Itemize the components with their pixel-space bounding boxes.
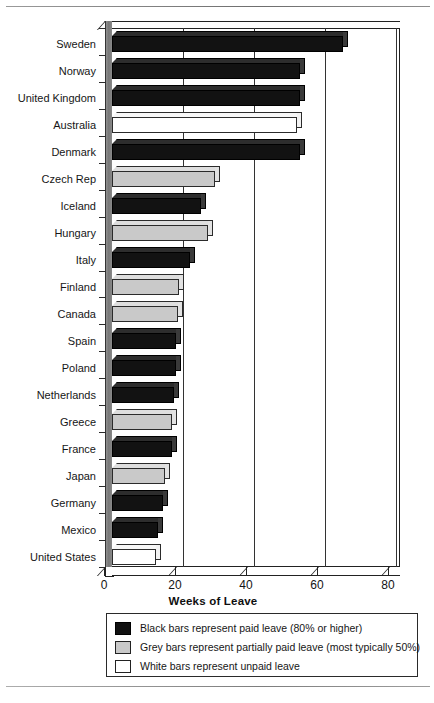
bar-australia xyxy=(112,117,297,133)
bar-spain xyxy=(112,333,176,349)
category-label-poland: Poland xyxy=(62,362,96,374)
category-label-sweden: Sweden xyxy=(56,38,96,50)
y-tick xyxy=(99,217,106,218)
axis-tick-60 xyxy=(317,567,326,576)
category-label-netherlands: Netherlands xyxy=(37,389,96,401)
category-label-spain: Spain xyxy=(68,335,96,347)
y-tick xyxy=(99,55,106,56)
legend-label: Black bars represent paid leave (80% or … xyxy=(140,622,362,634)
bar-united-states xyxy=(112,549,156,565)
legend-row: Grey bars represent partially paid leave… xyxy=(115,640,420,654)
category-label-iceland: Iceland xyxy=(61,200,96,212)
y-tick xyxy=(99,351,106,352)
y-tick xyxy=(99,297,106,298)
legend-row: White bars represent unpaid leave xyxy=(115,659,300,673)
axis-tick-80 xyxy=(388,567,397,576)
plot-left-wall xyxy=(105,21,112,567)
axis-tick-20 xyxy=(175,567,184,576)
bar-united-kingdom xyxy=(112,90,300,106)
y-tick xyxy=(99,271,106,272)
legend-swatch-black xyxy=(115,622,131,635)
x-tick-label-40: 40 xyxy=(226,578,266,592)
category-label-norway: Norway xyxy=(59,65,96,77)
x-axis-title: Weeks of Leave xyxy=(33,595,393,607)
legend-label: Grey bars represent partially paid leave… xyxy=(140,641,420,653)
y-tick xyxy=(99,28,106,29)
plot-background xyxy=(112,28,400,567)
bar-sweden xyxy=(112,36,343,52)
bar-hungary xyxy=(112,225,208,241)
gridline-60 xyxy=(325,28,326,567)
category-label-germany: Germany xyxy=(51,497,96,509)
category-label-australia: Australia xyxy=(53,119,96,131)
category-label-italy: Italy xyxy=(76,254,96,266)
category-label-denmark: Denmark xyxy=(51,146,96,158)
category-label-hungary: Hungary xyxy=(54,227,96,239)
bar-germany xyxy=(112,495,163,511)
bar-denmark xyxy=(112,144,300,160)
legend-label: White bars represent unpaid leave xyxy=(140,660,300,672)
y-tick xyxy=(99,567,106,568)
legend-swatch-white xyxy=(115,660,131,673)
y-tick xyxy=(99,82,106,83)
category-label-finland: Finland xyxy=(60,281,96,293)
bar-finland xyxy=(112,279,179,295)
y-tick xyxy=(99,540,106,541)
gridline-80 xyxy=(396,28,397,567)
bar-greece xyxy=(112,414,172,430)
category-label-greece: Greece xyxy=(60,416,96,428)
bar-chart: SwedenNorwayUnited KingdomAustraliaDenma… xyxy=(0,0,434,600)
bar-norway xyxy=(112,63,300,79)
y-tick xyxy=(99,244,106,245)
bar-iceland xyxy=(112,198,201,214)
x-tick-label-0: 0 xyxy=(84,578,124,592)
bar-czech-rep xyxy=(112,171,215,187)
legend-row: Black bars represent paid leave (80% or … xyxy=(115,621,362,635)
legend-swatch-grey xyxy=(115,641,131,654)
category-label-united-kingdom: United Kingdom xyxy=(18,92,96,104)
y-tick xyxy=(99,405,106,406)
y-tick xyxy=(99,109,106,110)
y-tick xyxy=(99,163,106,164)
axis-tick-0 xyxy=(104,567,113,576)
category-label-france: France xyxy=(62,443,96,455)
x-tick-label-80: 80 xyxy=(368,578,408,592)
y-tick xyxy=(99,324,106,325)
category-label-mexico: Mexico xyxy=(61,524,96,536)
bar-netherlands xyxy=(112,387,174,403)
x-tick-label-20: 20 xyxy=(155,578,195,592)
y-tick xyxy=(99,136,106,137)
category-label-united-states: United States xyxy=(30,551,96,563)
category-label-canada: Canada xyxy=(57,308,96,320)
category-label-japan: Japan xyxy=(66,470,96,482)
gridline-40 xyxy=(254,28,255,567)
category-label-czech-rep: Czech Rep xyxy=(42,173,96,185)
gridline-20 xyxy=(183,28,184,567)
y-tick xyxy=(99,513,106,514)
bar-france xyxy=(112,441,172,457)
legend: Black bars represent paid leave (80% or … xyxy=(106,613,418,677)
page-bottom-rule xyxy=(6,686,430,687)
bar-canada xyxy=(112,306,178,322)
y-tick xyxy=(99,190,106,191)
bar-mexico xyxy=(112,522,158,538)
y-tick xyxy=(99,459,106,460)
y-tick xyxy=(99,378,106,379)
y-tick xyxy=(99,486,106,487)
bar-poland xyxy=(112,360,176,376)
x-tick-label-60: 60 xyxy=(297,578,337,592)
bar-italy xyxy=(112,252,190,268)
y-tick xyxy=(99,432,106,433)
axis-tick-40 xyxy=(246,567,255,576)
bar-japan xyxy=(112,468,165,484)
